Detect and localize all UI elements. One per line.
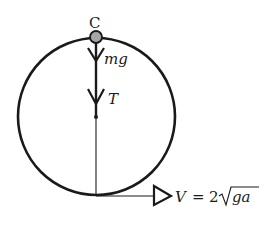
label-radicand: ga — [232, 188, 251, 206]
label-equals: = — [192, 188, 205, 206]
center-point — [94, 115, 98, 119]
label-mg: mg — [104, 50, 128, 68]
label-c: C — [89, 14, 100, 32]
ball-c — [90, 31, 102, 43]
label-v: V — [175, 188, 188, 206]
label-coef: 2 — [209, 188, 219, 206]
velocity-arrow-icon — [154, 186, 171, 205]
circular-motion-diagram: C mg T V = 2 ga — [0, 0, 280, 231]
label-t: T — [108, 90, 119, 108]
